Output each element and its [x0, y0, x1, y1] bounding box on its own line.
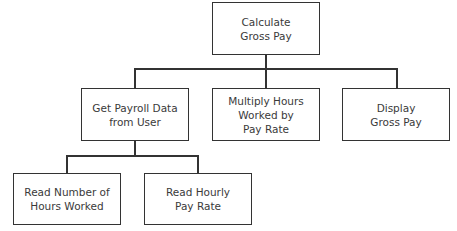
connector-to-get-payroll: [134, 68, 136, 88]
node-text-line: Read Hourly: [166, 185, 230, 199]
node-calculate-gross-pay: Calculate Gross Pay: [212, 2, 320, 55]
node-display-gross-pay: Display Gross Pay: [342, 88, 450, 141]
node-text-line: Display: [377, 101, 416, 115]
node-text-line: Multiply Hours: [228, 94, 304, 108]
node-text-line: Gross Pay: [240, 29, 291, 43]
node-read-hours-worked: Read Number of Hours Worked: [13, 173, 121, 225]
node-read-hourly-pay-rate: Read Hourly Pay Rate: [144, 173, 252, 225]
node-text-line: Worked by: [238, 108, 294, 122]
node-text-line: Pay Rate: [243, 122, 289, 136]
connector-to-multiply: [265, 68, 267, 88]
connector-to-read-hours: [66, 155, 68, 173]
connector-level2-bar: [66, 155, 198, 157]
node-text-line: Pay Rate: [175, 199, 221, 213]
node-text-line: Hours Worked: [30, 199, 103, 213]
connector-to-display: [396, 68, 398, 88]
node-get-payroll-data: Get Payroll Data from User: [81, 88, 189, 141]
connector-get-payroll-down: [134, 140, 136, 156]
node-text-line: Calculate: [241, 15, 290, 29]
node-multiply-hours: Multiply Hours Worked by Pay Rate: [212, 88, 320, 141]
connector-root-down: [265, 54, 267, 69]
node-text-line: from User: [109, 115, 161, 129]
node-text-line: Gross Pay: [370, 115, 421, 129]
node-text-line: Read Number of: [24, 185, 109, 199]
node-text-line: Get Payroll Data: [92, 101, 177, 115]
connector-to-read-rate: [197, 155, 199, 173]
